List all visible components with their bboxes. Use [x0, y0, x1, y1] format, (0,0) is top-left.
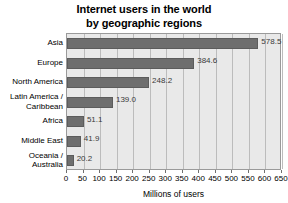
x-tick [99, 170, 100, 173]
bar[interactable] [67, 38, 258, 49]
y-axis-category-label: Latin America / Caribbean [0, 92, 63, 110]
chart-title-line-1: Internet users in the world [0, 3, 288, 17]
x-tick-label: 100 [92, 174, 105, 184]
bar-value-label: 41.9 [84, 134, 100, 144]
x-tick-label: 400 [192, 174, 205, 184]
x-tick-label: 350 [175, 174, 188, 184]
x-tick-label: 150 [109, 174, 122, 184]
x-tick [83, 170, 84, 173]
y-axis-category-label: North America [0, 77, 63, 86]
bar-row: 139.0 [67, 93, 280, 113]
bar-row: 248.2 [67, 73, 280, 93]
bar-value-label: 578.5 [261, 37, 281, 47]
chart-title-line-2: by geographic regions [0, 17, 288, 31]
x-tick [132, 170, 133, 173]
x-axis-tick-labels: 050100150200250300350400450500550600650 [0, 174, 288, 185]
y-axis-category-label: Africa [0, 116, 63, 125]
x-tick [264, 170, 265, 173]
x-tick-label: 0 [64, 174, 68, 184]
x-tick [248, 170, 249, 173]
chart-title: Internet users in the world by geographi… [0, 3, 288, 30]
x-tick-label: 200 [125, 174, 138, 184]
x-tick [198, 170, 199, 173]
bar-value-label: 384.6 [197, 56, 217, 66]
x-tick [66, 170, 67, 173]
bar-value-label: 248.2 [152, 76, 172, 86]
bar-value-label: 139.0 [116, 95, 136, 105]
x-tick [231, 170, 232, 173]
plot-area: 578.5384.6248.2139.051.141.920.2 [66, 33, 281, 170]
bar[interactable] [67, 77, 149, 88]
y-axis-category-labels: AsiaEuropeNorth AmericaLatin America / C… [0, 33, 63, 170]
bar[interactable] [67, 136, 81, 147]
x-tick-label: 50 [78, 174, 87, 184]
bar-value-label: 20.2 [77, 154, 93, 164]
x-axis-title: Millions of users [66, 189, 281, 199]
chart-container: Internet users in the world by geographi… [0, 0, 288, 203]
x-tick-label: 450 [208, 174, 221, 184]
x-tick-label: 300 [159, 174, 172, 184]
x-tick [165, 170, 166, 173]
x-tick-label: 500 [225, 174, 238, 184]
y-axis-category-label: Asia [0, 38, 63, 47]
bar[interactable] [67, 97, 113, 108]
bar-row: 20.2 [67, 151, 280, 171]
x-tick [116, 170, 117, 173]
bar-row: 51.1 [67, 112, 280, 132]
bar-row: 384.6 [67, 54, 280, 74]
gridline [282, 34, 283, 169]
y-axis-category-label: Europe [0, 58, 63, 67]
bar[interactable] [67, 155, 74, 166]
bars-layer: 578.5384.6248.2139.051.141.920.2 [67, 34, 280, 169]
bar-value-label: 51.1 [87, 115, 103, 125]
bar[interactable] [67, 58, 194, 69]
x-tick [215, 170, 216, 173]
x-tick-label: 550 [241, 174, 254, 184]
y-axis-category-label: Middle East [0, 136, 63, 145]
x-tick [281, 170, 282, 173]
x-tick [149, 170, 150, 173]
bar[interactable] [67, 116, 84, 127]
x-tick-label: 650 [274, 174, 287, 184]
x-tick [182, 170, 183, 173]
bar-row: 578.5 [67, 34, 280, 54]
bar-row: 41.9 [67, 132, 280, 152]
x-tick-label: 600 [258, 174, 271, 184]
y-axis-category-label: Oceania / Australia [0, 151, 63, 169]
x-tick-label: 250 [142, 174, 155, 184]
